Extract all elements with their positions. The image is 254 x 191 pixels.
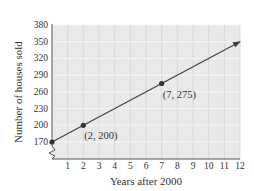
x-tick-label: 3 [97,161,102,171]
y-tick-label: 380 [34,20,49,30]
line-chart: 123456789101112170200230260290320350380 … [0,0,254,191]
y-tick-label: 170 [34,137,49,147]
x-tick-label: 4 [112,161,117,171]
x-tick-label: 2 [81,161,86,171]
x-tick-label: 10 [204,161,214,171]
y-tick-label: 290 [34,70,49,80]
x-tick-label: 7 [159,161,164,171]
y-tick-label: 320 [34,53,49,63]
x-tick-label: 11 [220,161,229,171]
x-tick-label: 6 [144,161,149,171]
y-tick-label: 350 [34,37,49,47]
x-tick-label: 5 [128,161,133,171]
y-tick-label: 230 [34,104,49,114]
y-tick-label: 200 [34,120,49,130]
data-point [81,123,86,128]
x-tick-label: 8 [175,161,180,171]
x-tick-label: 9 [191,161,196,171]
chart: 123456789101112170200230260290320350380 … [0,0,254,191]
point-label: (2, 200) [84,130,118,142]
y-axis-label: Number of houses sold [12,41,24,143]
x-tick-label: 1 [65,161,70,171]
data-point [159,81,164,86]
y-tick-label: 260 [34,87,49,97]
point-label: (7, 275) [163,89,197,101]
x-axis-label: Years after 2000 [110,175,183,187]
data-point [49,139,54,144]
x-tick-label: 12 [235,161,245,171]
